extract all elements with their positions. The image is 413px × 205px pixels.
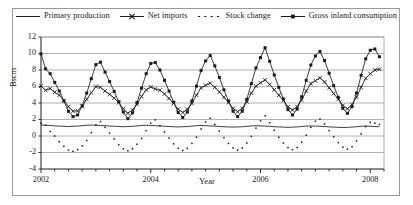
plot-svg: [13, 9, 401, 197]
x-tick-label: 2006: [244, 175, 278, 184]
x-axis-title: Year: [199, 176, 215, 186]
y-tick-label: 0: [14, 131, 36, 140]
x-tick-label: 2008: [353, 175, 387, 184]
y-tick-label: -4: [14, 164, 36, 173]
y-tick-label: 4: [14, 98, 36, 107]
x-tick-label: 2004: [134, 175, 168, 184]
series-primary-production: [41, 125, 379, 128]
y-tick-label: -2: [14, 147, 36, 156]
x-axis-ticks: [41, 169, 384, 173]
y-tick-label: 8: [14, 65, 36, 74]
x-tick-label: 2002: [24, 175, 58, 184]
y-tick-label: 12: [14, 32, 36, 41]
y-tick-label: 6: [14, 81, 36, 90]
series-stock-change: [40, 115, 380, 152]
chart-figure: Primary production Net imports S: [12, 8, 400, 196]
y-tick-label: 2: [14, 114, 36, 123]
y-tick-label: 10: [14, 48, 36, 57]
plot-container: Bscm Year -4-20246810122002200420062008: [13, 9, 399, 195]
